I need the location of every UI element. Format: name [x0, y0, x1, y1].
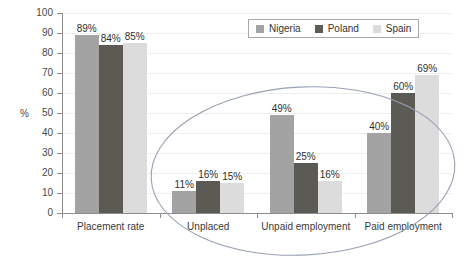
- x-tick-mark: [452, 213, 453, 218]
- category-label: Unplaced: [187, 221, 229, 233]
- bar-value-label: 16%: [320, 169, 340, 180]
- bar-value-label: 60%: [393, 81, 413, 92]
- bar-group: 40%60%69%: [367, 13, 439, 213]
- y-tick-label: 90: [0, 28, 53, 38]
- bar-value-label: 84%: [101, 33, 121, 44]
- y-tick-label: 30: [0, 148, 53, 158]
- y-tick-label: 10: [0, 188, 53, 198]
- bar-fill: [270, 115, 294, 213]
- bar-fill: [172, 191, 196, 213]
- legend: NigeriaPolandSpain: [248, 19, 419, 38]
- category-label: Placement rate: [77, 221, 144, 233]
- x-tick-mark: [160, 213, 161, 218]
- bar-value-label: 85%: [125, 31, 145, 42]
- bar-fill: [294, 163, 318, 213]
- bar-groups: 89%84%85%11%16%15%49%25%16%40%60%69%: [62, 13, 452, 213]
- legend-item[interactable]: Spain: [373, 23, 412, 34]
- bar-fill: [220, 183, 244, 213]
- legend-item[interactable]: Nigeria: [256, 23, 301, 34]
- bar-fill: [196, 181, 220, 213]
- y-tick-label: 70: [0, 68, 53, 78]
- bar-fill: [318, 181, 342, 213]
- bar-value-label: 11%: [175, 179, 194, 190]
- legend-label: Spain: [386, 23, 412, 34]
- x-tick-mark: [257, 213, 258, 218]
- bar-value-label: 25%: [296, 151, 316, 162]
- bar-value-label: 15%: [222, 171, 242, 182]
- bar-fill: [391, 93, 415, 213]
- legend-item[interactable]: Poland: [315, 23, 359, 34]
- bar-group: 11%16%15%: [172, 13, 244, 213]
- bar-fill: [415, 75, 439, 213]
- category-label: Paid employment: [365, 221, 442, 233]
- y-tick-label: 0: [0, 208, 53, 218]
- bar-group: 89%84%85%: [75, 13, 147, 213]
- legend-label: Nigeria: [269, 23, 301, 34]
- y-tick-label: 50: [0, 108, 53, 118]
- x-tick-mark: [355, 213, 356, 218]
- bar-chart: % 1009080706050403020100 89%84%85%11%16%…: [0, 0, 468, 271]
- bar-value-label: 69%: [417, 63, 437, 74]
- legend-swatch-icon: [315, 25, 323, 33]
- y-tick-label: 60: [0, 88, 53, 98]
- y-tick-label: 40: [0, 128, 53, 138]
- bar-fill: [75, 35, 99, 213]
- bar-group: 49%25%16%: [270, 13, 342, 213]
- legend-swatch-icon: [373, 25, 381, 33]
- legend-swatch-icon: [256, 25, 264, 33]
- bar-value-label: 16%: [198, 169, 218, 180]
- y-tick-label: 100: [0, 8, 53, 18]
- x-tick-mark: [62, 213, 63, 218]
- bar-value-label: 89%: [77, 23, 97, 34]
- bar-value-label: 49%: [272, 103, 292, 114]
- bar-fill: [367, 133, 391, 213]
- bar-fill: [123, 43, 147, 213]
- bar-value-label: 40%: [369, 121, 389, 132]
- y-tick-label: 80: [0, 48, 53, 58]
- legend-label: Poland: [328, 23, 359, 34]
- bar-fill: [99, 45, 123, 213]
- category-label: Unpaid employment: [261, 221, 350, 233]
- y-tick-label: 20: [0, 168, 53, 178]
